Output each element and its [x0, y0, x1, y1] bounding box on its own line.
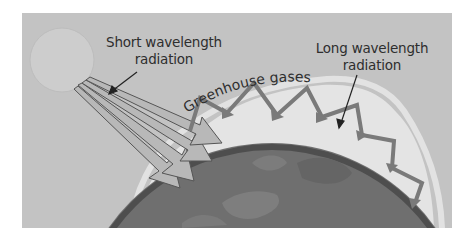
greenhouse-diagram: Greenhouse gases Short wavelength radiat…: [22, 13, 452, 228]
short-wavelength-line1: Short wavelength: [84, 34, 244, 51]
long-wavelength-label: Long wavelength radiation: [302, 40, 442, 74]
short-wavelength-line2: radiation: [84, 51, 244, 68]
short-wavelength-label: Short wavelength radiation: [84, 34, 244, 68]
long-wavelength-line1: Long wavelength: [302, 40, 442, 57]
long-wavelength-line2: radiation: [302, 57, 442, 74]
